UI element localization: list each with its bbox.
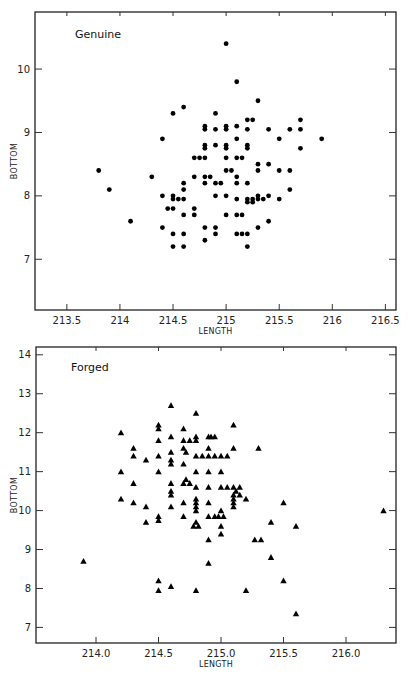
data-point-triangle: [218, 468, 224, 474]
data-point-triangle: [252, 537, 258, 543]
data-point-triangle: [255, 445, 261, 451]
data-point-triangle: [193, 587, 199, 593]
data-point-triangle: [293, 611, 299, 617]
y-tick-label: 13: [18, 388, 31, 399]
data-point-triangle: [168, 402, 174, 408]
data-point-triangle: [218, 523, 224, 529]
x-tick-label: 215.5: [269, 648, 298, 659]
data-point-triangle: [118, 468, 124, 474]
y-tick-label: 12: [18, 427, 31, 438]
forged-plot-frame: [36, 347, 396, 643]
data-point-triangle: [180, 437, 186, 443]
data-point-triangle: [180, 513, 186, 519]
data-point-triangle: [168, 480, 174, 486]
y-tick-label: 8: [25, 583, 31, 594]
data-point-triangle: [230, 445, 236, 451]
x-axis-title: LENGTH: [199, 660, 233, 669]
x-tick-label: 215.0: [207, 648, 236, 659]
data-point-triangle: [143, 503, 149, 509]
data-point-triangle: [193, 410, 199, 416]
data-point-triangle: [258, 537, 264, 543]
y-tick-label: 11: [18, 466, 31, 477]
data-point-triangle: [220, 513, 226, 519]
forged-panel-title: Forged: [71, 361, 109, 374]
data-point-triangle: [224, 484, 230, 490]
data-point-triangle: [155, 453, 161, 459]
y-tick-label: 10: [18, 505, 31, 516]
forged-chart: 214.0214.5215.0215.5216.07891011121314LE…: [0, 0, 408, 676]
data-point-triangle: [168, 503, 174, 509]
data-point-triangle: [193, 484, 199, 490]
data-point-triangle: [205, 537, 211, 543]
data-point-triangle: [205, 445, 211, 451]
data-point-triangle: [168, 583, 174, 589]
data-point-triangle: [218, 531, 224, 537]
data-point-triangle: [130, 480, 136, 486]
data-point-triangle: [180, 426, 186, 432]
data-point-triangle: [155, 468, 161, 474]
x-tick-label: 214.0: [82, 648, 111, 659]
y-axis-title: BOTTOM: [10, 477, 19, 513]
forged-data-points: [80, 402, 386, 616]
data-point-triangle: [380, 507, 386, 513]
data-point-triangle: [205, 500, 211, 506]
data-point-triangle: [243, 496, 249, 502]
data-point-triangle: [218, 507, 224, 513]
data-point-triangle: [143, 519, 149, 525]
y-tick-label: 9: [25, 544, 31, 555]
data-point-triangle: [218, 453, 224, 459]
data-point-triangle: [168, 433, 174, 439]
data-point-triangle: [130, 445, 136, 451]
data-point-triangle: [237, 484, 243, 490]
data-point-triangle: [280, 577, 286, 583]
x-tick-label: 216.0: [332, 648, 361, 659]
data-point-triangle: [205, 484, 211, 490]
data-point-triangle: [205, 513, 211, 519]
data-point-triangle: [180, 461, 186, 467]
data-point-triangle: [168, 449, 174, 455]
data-point-triangle: [187, 437, 193, 443]
data-point-triangle: [224, 453, 230, 459]
data-point-triangle: [155, 587, 161, 593]
forged-scatter-plot: 214.0214.5215.0215.5216.07891011121314LE…: [0, 0, 408, 676]
data-point-triangle: [280, 500, 286, 506]
data-point-triangle: [118, 429, 124, 435]
data-point-triangle: [293, 523, 299, 529]
x-tick-label: 214.5: [144, 648, 173, 659]
data-point-triangle: [193, 453, 199, 459]
data-point-triangle: [268, 554, 274, 560]
data-point-triangle: [118, 496, 124, 502]
data-point-triangle: [130, 453, 136, 459]
data-point-triangle: [180, 500, 186, 506]
data-point-triangle: [199, 453, 205, 459]
y-tick-label: 14: [18, 349, 31, 360]
data-point-triangle: [268, 519, 274, 525]
data-point-triangle: [80, 558, 86, 564]
data-point-triangle: [243, 587, 249, 593]
data-point-triangle: [218, 484, 224, 490]
data-point-triangle: [130, 500, 136, 506]
data-point-triangle: [193, 468, 199, 474]
data-point-triangle: [205, 560, 211, 566]
data-point-triangle: [205, 453, 211, 459]
data-point-triangle: [155, 437, 161, 443]
y-tick-label: 7: [25, 622, 31, 633]
data-point-triangle: [143, 457, 149, 463]
data-point-triangle: [155, 577, 161, 583]
data-point-triangle: [230, 422, 236, 428]
data-point-triangle: [205, 468, 211, 474]
data-point-triangle: [212, 453, 218, 459]
